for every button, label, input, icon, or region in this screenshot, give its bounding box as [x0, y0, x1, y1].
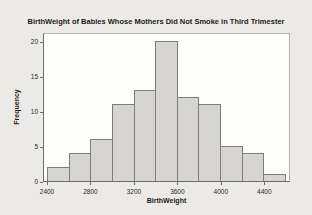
y-tick-mark: [40, 182, 43, 183]
y-tick-label: 10: [22, 108, 38, 116]
histogram-bar: [242, 153, 265, 181]
y-tick-mark: [40, 42, 43, 43]
x-tick-mark: [134, 182, 135, 185]
x-tick-label: 2800: [77, 188, 103, 196]
x-axis-label: BirthWeight: [43, 197, 290, 204]
histogram-bar: [47, 167, 70, 181]
histogram-bar: [177, 97, 200, 181]
histogram-bar: [90, 139, 113, 181]
histogram-bar: [112, 104, 135, 181]
histogram-bar: [69, 153, 92, 181]
y-tick-label: 0: [22, 178, 38, 186]
y-tick-label: 15: [22, 73, 38, 81]
bars: [47, 34, 286, 181]
x-tick-mark: [90, 182, 91, 185]
x-tick-mark: [221, 182, 222, 185]
y-axis-label: Frequency: [12, 77, 22, 137]
histogram-bar: [134, 90, 157, 181]
x-tick-mark: [177, 182, 178, 185]
x-tick-mark: [264, 182, 265, 185]
y-tick-mark: [40, 112, 43, 113]
y-tick-mark: [40, 77, 43, 78]
chart-title: BirthWeight of Babies Whose Mothers Did …: [0, 17, 312, 26]
histogram-bar: [155, 41, 178, 181]
x-tick-mark: [47, 182, 48, 185]
x-tick-label: 4000: [208, 188, 234, 196]
chart-screenshot: BirthWeight of Babies Whose Mothers Did …: [0, 0, 312, 215]
x-tick-label: 2400: [34, 188, 60, 196]
y-tick-label: 5: [22, 143, 38, 151]
histogram-bar: [220, 146, 243, 181]
histogram-bar: [263, 174, 286, 181]
y-tick-label: 20: [22, 38, 38, 46]
x-tick-label: 3200: [121, 188, 147, 196]
x-tick-label: 4400: [251, 188, 277, 196]
plot-area: [43, 33, 290, 182]
y-tick-mark: [40, 147, 43, 148]
histogram-bar: [198, 104, 221, 181]
x-tick-label: 3600: [164, 188, 190, 196]
